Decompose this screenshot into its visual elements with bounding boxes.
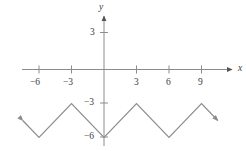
x-tick-label--3: −3 <box>63 78 73 88</box>
graph-figure: −6 −3 3 6 9 3 −3 −6 y x <box>0 0 246 151</box>
triangular-wave <box>23 104 218 138</box>
x-tick-label-3: 3 <box>134 78 139 88</box>
y-axis-label: y <box>99 3 103 13</box>
x-tick-label-9: 9 <box>198 78 203 88</box>
y-tick-label--3: −3 <box>84 98 94 108</box>
y-axis <box>100 16 108 146</box>
y-tick-label-3: 3 <box>90 28 95 38</box>
y-tick-label--6: −6 <box>84 132 94 142</box>
coordinate-plane <box>0 0 246 151</box>
x-tick-label--6: −6 <box>30 78 40 88</box>
x-axis-label: x <box>238 64 242 74</box>
x-axis <box>22 66 232 74</box>
function-curve <box>23 104 218 138</box>
x-tick-label-6: 6 <box>166 78 171 88</box>
